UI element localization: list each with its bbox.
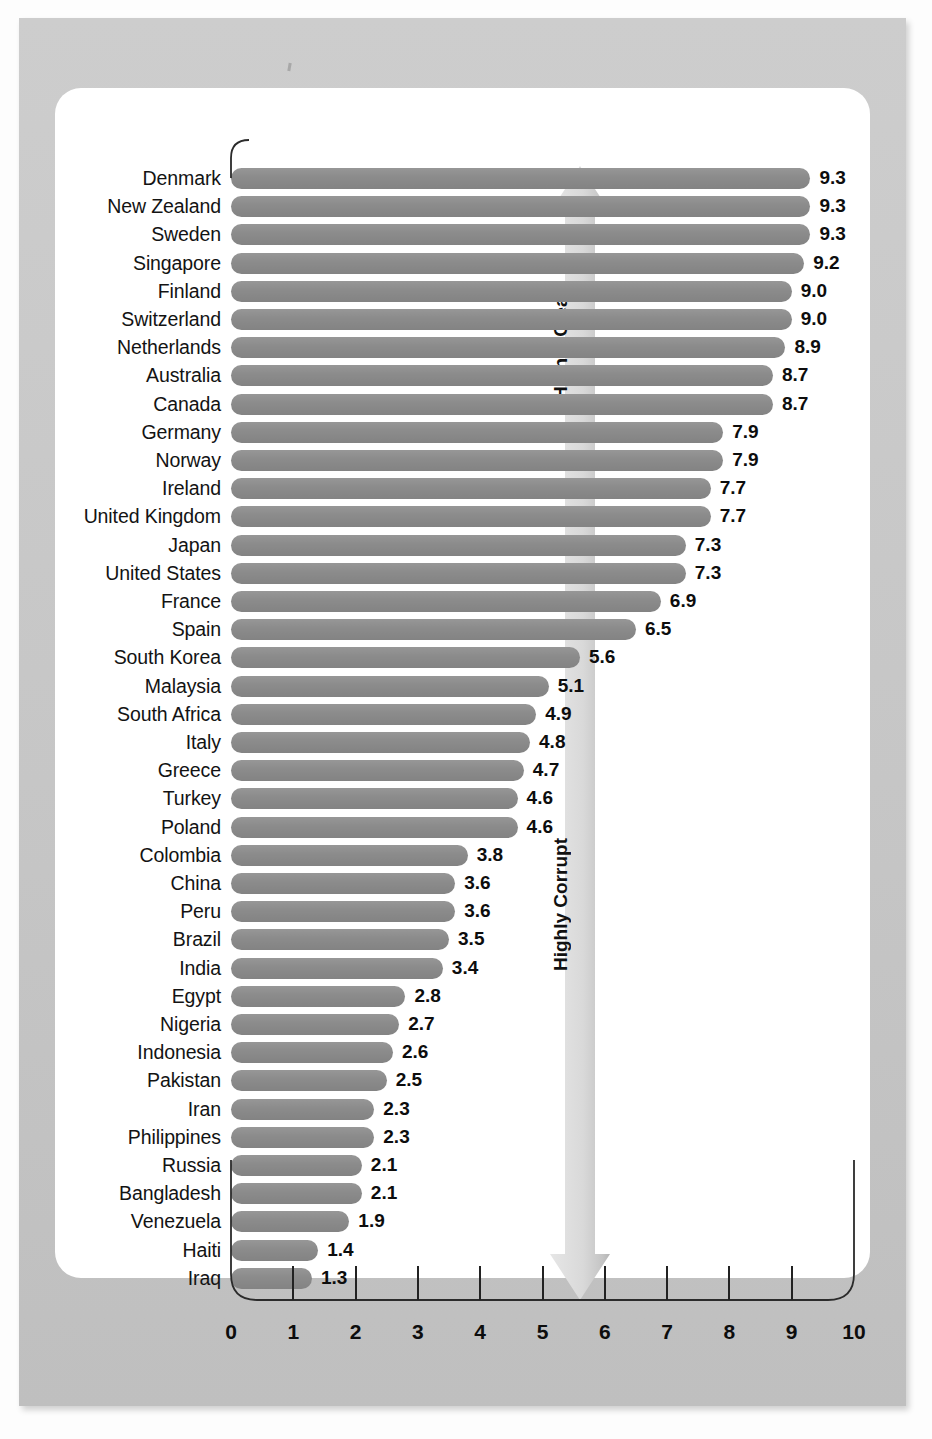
- bar: [231, 337, 785, 358]
- axis-tick-label: 5: [523, 1320, 563, 1344]
- bar: [231, 168, 810, 189]
- bar-value-label: 4.8: [539, 728, 565, 756]
- table-row: Greece4.7: [0, 756, 932, 784]
- axis-tick-label: 4: [460, 1320, 500, 1344]
- bar-value-label: 3.6: [464, 897, 490, 925]
- bar-value-label: 2.3: [383, 1123, 409, 1151]
- country-label: New Zealand: [21, 192, 221, 220]
- axis-tick: [355, 1266, 357, 1300]
- table-row: Nigeria2.7: [0, 1010, 932, 1038]
- table-row: Pakistan2.5: [0, 1066, 932, 1094]
- country-label: France: [21, 587, 221, 615]
- bar-value-label: 2.6: [402, 1038, 428, 1066]
- country-label: Philippines: [21, 1123, 221, 1151]
- table-row: Netherlands8.9: [0, 333, 932, 361]
- bar: [231, 506, 711, 527]
- country-label: Nigeria: [21, 1010, 221, 1038]
- bar: [231, 873, 455, 894]
- bar: [231, 224, 810, 245]
- bar-value-label: 9.2: [813, 249, 839, 277]
- bar: [231, 1127, 374, 1148]
- bar-value-label: 3.5: [458, 925, 484, 953]
- bar-value-label: 9.3: [819, 220, 845, 248]
- bar-value-label: 8.9: [794, 333, 820, 361]
- country-label: Iran: [21, 1095, 221, 1123]
- country-label: Canada: [21, 390, 221, 418]
- bar: [231, 1042, 393, 1063]
- bar: [231, 845, 468, 866]
- bar: [231, 986, 405, 1007]
- country-label: Norway: [21, 446, 221, 474]
- bar-value-label: 2.1: [371, 1151, 397, 1179]
- bar: [231, 563, 686, 584]
- axis-tick-label: 9: [772, 1320, 812, 1344]
- country-label: Spain: [21, 615, 221, 643]
- table-row: United Kingdom7.7: [0, 502, 932, 530]
- country-label: Colombia: [21, 841, 221, 869]
- bar: [231, 1183, 362, 1204]
- table-row: Norway7.9: [0, 446, 932, 474]
- bar: [231, 1070, 387, 1091]
- table-row: New Zealand9.3: [0, 192, 932, 220]
- bar-value-label: 7.9: [732, 446, 758, 474]
- table-row: Finland9.0: [0, 277, 932, 305]
- country-label: Iraq: [21, 1264, 221, 1292]
- country-label: Japan: [21, 531, 221, 559]
- bar: [231, 478, 711, 499]
- bar-value-label: 7.7: [720, 502, 746, 530]
- table-row: Singapore9.2: [0, 249, 932, 277]
- axis-tick-label: 8: [709, 1320, 749, 1344]
- table-row: Poland4.6: [0, 813, 932, 841]
- country-label: Singapore: [21, 249, 221, 277]
- table-row: Denmark9.3: [0, 164, 932, 192]
- country-label: Egypt: [21, 982, 221, 1010]
- axis-tick: [479, 1266, 481, 1300]
- bar-value-label: 6.5: [645, 615, 671, 643]
- country-label: Switzerland: [21, 305, 221, 333]
- country-label: China: [21, 869, 221, 897]
- bar-value-label: 4.6: [527, 784, 553, 812]
- country-label: Denmark: [21, 164, 221, 192]
- country-label: Peru: [21, 897, 221, 925]
- bar: [231, 309, 792, 330]
- axis-tick: [728, 1266, 730, 1300]
- bar: [231, 253, 804, 274]
- bar-value-label: 7.7: [720, 474, 746, 502]
- bar: [231, 704, 536, 725]
- country-label: Venezuela: [21, 1207, 221, 1235]
- table-row: Russia2.1: [0, 1151, 932, 1179]
- table-row: France6.9: [0, 587, 932, 615]
- bar: [231, 1099, 374, 1120]
- axis-tick: [791, 1266, 793, 1300]
- table-row: Philippines2.3: [0, 1123, 932, 1151]
- bar-value-label: 8.7: [782, 390, 808, 418]
- bar-value-label: 5.6: [589, 643, 615, 671]
- country-label: Indonesia: [21, 1038, 221, 1066]
- bar: [231, 450, 723, 471]
- country-label: Haiti: [21, 1236, 221, 1264]
- table-row: Switzerland9.0: [0, 305, 932, 333]
- axis-tick-label: 2: [336, 1320, 376, 1344]
- axis-tick-label: 1: [273, 1320, 313, 1344]
- bar: [231, 422, 723, 443]
- chart-page: Highly Clean Highly Corrupt Denmark9.3Ne…: [0, 0, 932, 1439]
- country-label: Poland: [21, 813, 221, 841]
- table-row: China3.6: [0, 869, 932, 897]
- bar-value-label: 8.7: [782, 361, 808, 389]
- bar: [231, 619, 636, 640]
- table-row: Indonesia2.6: [0, 1038, 932, 1066]
- table-row: Australia8.7: [0, 361, 932, 389]
- bar-value-label: 9.0: [801, 277, 827, 305]
- table-row: South Africa4.9: [0, 700, 932, 728]
- axis-tick-label: 7: [647, 1320, 687, 1344]
- bar: [231, 1014, 399, 1035]
- bar: [231, 1240, 318, 1261]
- bar: [231, 958, 443, 979]
- table-row: India3.4: [0, 954, 932, 982]
- country-label: South Korea: [21, 643, 221, 671]
- bar-value-label: 3.8: [477, 841, 503, 869]
- table-row: Iran2.3: [0, 1095, 932, 1123]
- table-row: Japan7.3: [0, 531, 932, 559]
- axis-tick-label: 6: [585, 1320, 625, 1344]
- country-label: Italy: [21, 728, 221, 756]
